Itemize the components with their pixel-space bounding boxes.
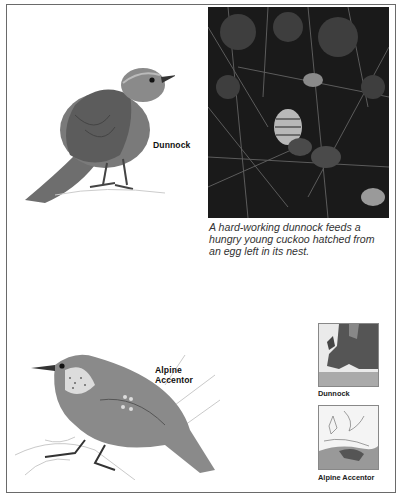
photo-caption: A hard-working dunnock feeds a hungry yo… [209,221,394,257]
label-line: Accentor [155,375,193,385]
cuckoo-nest-photo [208,7,389,218]
caption-line: hungry young cuckoo hatched from [209,233,394,245]
alpine-accentor-map-label: Alpine Accentor [318,473,374,482]
dunnock-range-map [318,323,379,387]
caption-line: an egg left in its nest. [209,245,394,257]
dunnock-illustration [15,55,175,205]
dunnock-label: Dunnock [153,140,190,150]
dunnock-map-label: Dunnock [318,389,350,398]
label-line: Alpine [155,365,193,375]
alpine-accentor-label: Alpine Accentor [155,365,193,385]
alpine-accentor-range-map [318,405,379,470]
caption-line: A hard-working dunnock feeds a [209,221,394,233]
alpine-accentor-illustration [15,345,225,480]
